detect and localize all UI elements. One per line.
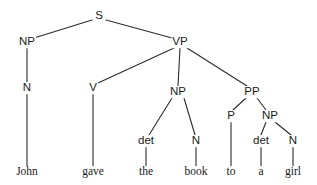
syntax-tree-diagram: SNPVPNVNPPPdetNPNPdetNJohngavethebooktoa… (0, 0, 317, 185)
tree-edge-np3-to-n3 (275, 122, 291, 135)
tree-edge-np2-to-n2 (184, 98, 195, 135)
tree-node-v: V (88, 82, 98, 94)
tree-node-s: S (94, 10, 104, 22)
tree-terminal-w_a: a (257, 166, 264, 178)
tree-terminal-w_john: John (15, 166, 39, 178)
tree-node-np3: NP (261, 110, 279, 122)
tree-node-det2: det (252, 135, 270, 147)
tree-terminal-w_the: the (138, 166, 154, 178)
tree-node-np1: NP (18, 36, 36, 48)
tree-node-n3: N (288, 135, 298, 147)
tree-edges-layer (0, 0, 317, 185)
tree-edge-pp-to-np3 (257, 98, 266, 110)
tree-node-n2: N (191, 135, 201, 147)
tree-edge-pp-to-p (233, 98, 246, 110)
tree-edge-vp-to-pp (187, 48, 247, 86)
tree-terminal-w_book: book (184, 166, 209, 178)
tree-node-np2: NP (169, 86, 187, 98)
tree-node-vp: VP (171, 36, 188, 48)
tree-edge-np2-to-det1 (149, 98, 172, 135)
tree-edge-vp-to-v (98, 48, 174, 83)
tree-terminal-w_gave: gave (81, 166, 105, 178)
tree-node-pp: PP (243, 86, 260, 98)
tree-edge-s-to-np1 (34, 20, 92, 38)
tree-edge-s-to-vp (106, 20, 172, 38)
tree-terminal-w_to: to (226, 166, 237, 178)
tree-edge-np3-to-det2 (261, 122, 266, 135)
tree-terminal-w_girl: girl (284, 166, 302, 178)
tree-node-det1: det (137, 135, 155, 147)
tree-node-p: P (226, 110, 236, 122)
tree-edge-vp-to-np2 (178, 48, 180, 86)
tree-node-n1: N (22, 82, 32, 94)
